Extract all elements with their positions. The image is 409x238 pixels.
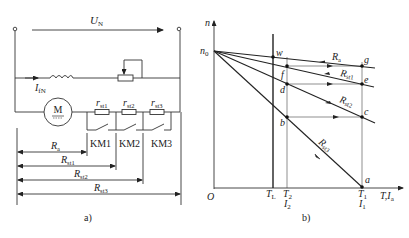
contactor-label-km1: KM1 [90,138,111,149]
supply-voltage-label: UN [90,14,103,28]
y-axis-label: n [205,17,210,28]
n0-label: n0 [200,45,209,58]
line-rst3 [214,51,362,187]
resistor-rst1 [95,110,109,115]
dim-label-ra: Ra [50,140,60,152]
line-label-rst1: Rst1 [339,67,355,81]
right-terminal [177,27,181,31]
label-g: g [364,54,369,65]
x-axis-label: T,Ia [380,190,395,203]
resistor-label-rst1: rst1 [96,97,108,109]
line-label-ra: Ra [331,51,341,63]
origin-label: O [207,191,214,202]
contactor-label-km3: KM3 [151,138,172,149]
motor-label: M [54,104,63,115]
field-rheostat [118,75,133,81]
dim-label-rst1: Rst1 [60,154,75,166]
diagram-canvas: UN IfN M rst1 rst2 rst3 KM1 KM2 KM3 Ra R… [0,0,409,238]
resistor-label-rst3: rst3 [151,97,163,109]
field-winding-icon [50,76,73,79]
label-c: c [364,106,369,117]
contactor-label-km2: KM2 [119,138,140,149]
label-b: b [280,117,285,128]
dim-label-rst2: Rst2 [73,168,88,180]
point-w [271,55,275,59]
label-f: f [281,69,285,80]
field-current-label: IfN [34,82,46,95]
label-d: d [280,84,286,95]
speed-torque-chart [214,21,403,189]
label-a: a [365,174,370,185]
label-e: e [364,74,369,85]
dim-label-rst3: Rst3 [93,182,108,194]
resistor-rst2 [122,110,136,115]
line-label-rst3: Rst3 [316,135,335,153]
point-d [285,82,289,86]
resistor-label-rst2: rst2 [123,97,135,109]
caption-a: a) [84,212,92,224]
point-f [285,64,289,68]
circuit-diagram [13,27,181,205]
tick-tl: TL [266,188,276,201]
label-w: w [276,47,283,58]
resistor-rst3 [150,110,164,115]
point-b [285,115,289,119]
line-label-rst2: Rst2 [337,93,355,109]
left-terminal [13,27,17,31]
line-rst1 [214,51,374,87]
line-rst2 [214,51,375,123]
caption-b: b) [302,212,310,224]
line-ra [214,51,375,68]
